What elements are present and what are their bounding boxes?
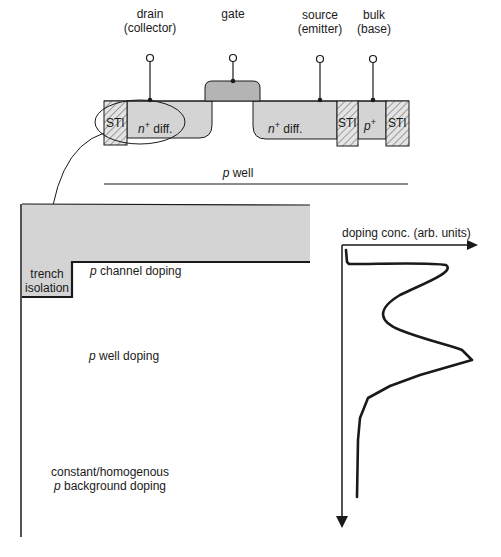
sti-left-label: STI (106, 116, 125, 130)
x-axis-arrowhead-icon (467, 240, 478, 250)
trench-label-line1: trench (30, 267, 63, 281)
source-terminal (317, 56, 324, 103)
background-doping-label-line1: constant/homogenous (51, 465, 169, 479)
gate-terminal (230, 55, 237, 84)
x-axis-label: doping conc. (arb. units) (342, 226, 471, 240)
doping-profile-curve (346, 250, 472, 497)
source-label: source (302, 8, 338, 22)
trench-label-line2: isolation (25, 281, 69, 295)
drain-terminal (147, 55, 154, 103)
background-doping-label-line2: p background doping (53, 479, 166, 493)
p-channel-doping-label: p channel doping (89, 264, 181, 278)
mosfet-cross-section: drain (collector) gate source (emitter) … (95, 7, 409, 184)
source-sub-label: (emitter) (298, 22, 343, 36)
n-diff-source-label: n+ diff. (268, 120, 302, 136)
depth-axis-arrowhead-icon (336, 516, 348, 528)
drain-sub-label: (collector) (124, 21, 177, 35)
bulk-sub-label: (base) (357, 22, 391, 36)
gate-label: gate (221, 7, 245, 21)
bulk-label: bulk (363, 8, 386, 22)
n-diff-drain-label: n+ diff. (138, 120, 172, 136)
sti-middle-label: STI (338, 116, 357, 130)
drain-label: drain (137, 7, 164, 21)
gate-electrode (205, 81, 260, 101)
p-well-label: p well (222, 166, 254, 180)
bulk-terminal (370, 56, 377, 103)
p-well-doping-label: p well doping (88, 349, 159, 363)
sti-right-label: STI (388, 116, 407, 130)
enlarged-cross-section: trench isolation p channel doping p well… (21, 204, 310, 537)
doping-profile-chart: doping conc. (arb. units) (336, 226, 478, 528)
doping-diagram: drain (collector) gate source (emitter) … (0, 0, 501, 557)
